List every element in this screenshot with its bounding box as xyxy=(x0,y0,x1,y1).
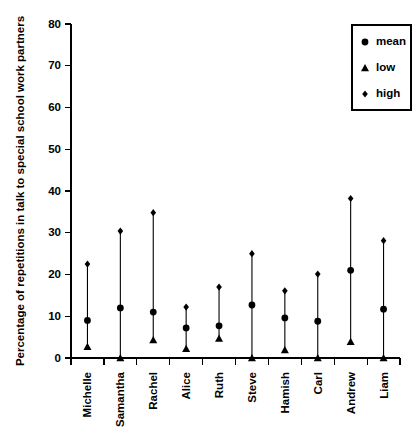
marker-mean xyxy=(314,318,321,325)
marker-low xyxy=(215,334,223,341)
marker-high xyxy=(249,250,255,257)
data-point-group xyxy=(182,303,190,352)
marker-mean xyxy=(347,267,354,274)
legend-label-high: high xyxy=(376,87,400,99)
marker-mean xyxy=(183,325,190,332)
marker-high xyxy=(315,270,321,277)
x-tick-label: Liam xyxy=(378,372,390,399)
y-tick-label: 50 xyxy=(48,143,61,155)
y-axis-title: Percentage of repetitions in talk to spe… xyxy=(14,16,26,366)
y-tick-label: 10 xyxy=(48,310,61,322)
marker-mean xyxy=(249,302,256,309)
marker-high xyxy=(118,227,124,234)
marker-mean xyxy=(380,306,387,313)
data-point-group xyxy=(83,260,91,350)
x-tick-label: Alice xyxy=(180,372,192,400)
x-tick-label: Hamish xyxy=(279,372,291,414)
y-axis-ticks: 01020304050607080 xyxy=(48,18,71,364)
y-tick-label: 30 xyxy=(48,226,61,238)
marker-high xyxy=(282,287,288,294)
data-point-group xyxy=(248,250,256,361)
marker-high xyxy=(348,195,354,202)
data-point-group xyxy=(281,287,289,353)
legend: meanlowhigh xyxy=(352,25,411,110)
x-tick-label: Samantha xyxy=(114,371,126,427)
data-point-group xyxy=(149,209,157,343)
x-axis-ticks: MichelleSamanthaRachelAliceRuthSteveHami… xyxy=(71,358,400,427)
marker-low xyxy=(182,345,190,352)
marker-low xyxy=(149,336,157,343)
marker-high xyxy=(381,237,387,244)
data-point-group xyxy=(314,270,322,361)
chart-container: 01020304050607080Percentage of repetitio… xyxy=(0,0,417,437)
y-tick-label: 0 xyxy=(55,352,61,364)
x-tick-label: Michelle xyxy=(81,372,93,417)
y-tick-label: 80 xyxy=(48,18,61,30)
marker-low xyxy=(347,338,355,345)
marker-mean xyxy=(150,309,157,316)
y-tick-label: 60 xyxy=(48,101,61,113)
marker-mean xyxy=(281,315,288,322)
x-tick-label: Carl xyxy=(312,372,324,394)
x-tick-label: Rachel xyxy=(147,372,159,410)
marker-mean xyxy=(216,322,223,329)
x-tick-label: Steve xyxy=(246,372,258,403)
marker-mean xyxy=(117,305,124,312)
x-tick-label: Andrew xyxy=(345,372,357,414)
marker-high xyxy=(183,303,189,310)
marker-high xyxy=(216,283,222,290)
y-tick-label: 70 xyxy=(48,59,61,71)
data-point-group xyxy=(380,237,388,361)
marker-low xyxy=(83,343,91,350)
data-point-group xyxy=(347,195,355,345)
legend-label-low: low xyxy=(376,61,395,73)
x-tick-label: Ruth xyxy=(213,372,225,398)
marker-high xyxy=(85,260,91,267)
y-axis-title-group: Percentage of repetitions in talk to spe… xyxy=(14,16,26,366)
marker-mean xyxy=(84,317,91,324)
marker-low xyxy=(281,346,289,353)
legend-marker-mean xyxy=(362,39,369,46)
marker-high xyxy=(150,209,156,216)
data-point-group xyxy=(116,227,124,361)
data-point-group xyxy=(215,283,223,341)
legend-label-mean: mean xyxy=(376,35,406,47)
y-tick-label: 40 xyxy=(48,185,61,197)
range-plot: 01020304050607080Percentage of repetitio… xyxy=(0,0,417,437)
y-tick-label: 20 xyxy=(48,268,61,280)
